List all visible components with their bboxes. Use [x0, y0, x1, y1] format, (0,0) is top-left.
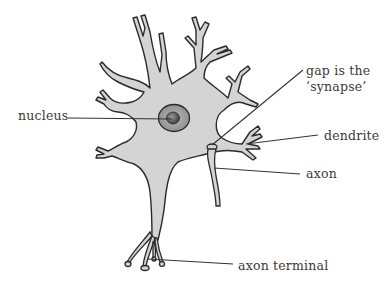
label-synapse: gap is the ‘synapse’	[306, 63, 370, 95]
label-axon-terminal: axon terminal	[238, 259, 328, 273]
second-neuron-axon	[207, 144, 220, 206]
label-dendrite: dendrite	[324, 129, 379, 143]
label-synapse-line1: gap is the	[306, 63, 370, 79]
label-axon: axon	[306, 167, 337, 181]
leader-line-axon	[214, 168, 300, 174]
nucleus	[159, 105, 190, 132]
label-nucleus: nucleus	[18, 109, 68, 123]
label-synapse-line2: ‘synapse’	[306, 79, 370, 95]
neuron-diagram: nucleus gap is the ‘synapse’ dendrite ax…	[0, 0, 385, 285]
